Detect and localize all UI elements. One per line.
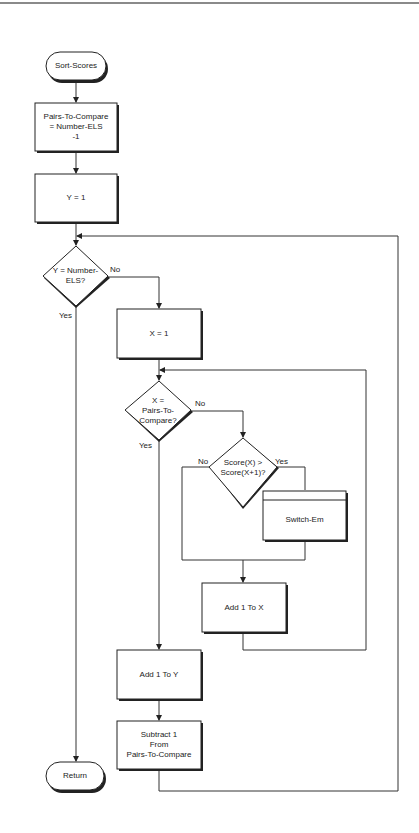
label-cond-score-no: No bbox=[198, 457, 209, 466]
label-cond-x-no: No bbox=[195, 399, 206, 408]
predefined-switch-em bbox=[263, 491, 346, 540]
label-cond-x-yes: Yes bbox=[139, 441, 152, 450]
edge-cond-score-yes bbox=[277, 467, 305, 490]
decision-cond-x bbox=[125, 381, 191, 440]
label-cond-y-yes: Yes bbox=[59, 311, 72, 320]
process-inc-x bbox=[202, 583, 286, 632]
edge-cond-x-no bbox=[191, 411, 243, 437]
flowchart-canvas: No Yes No Yes No Yes bbox=[0, 0, 419, 833]
process-inc-y bbox=[117, 650, 201, 699]
process-init-x bbox=[117, 309, 201, 358]
decision-cond-y bbox=[43, 246, 108, 306]
label-cond-y-no: No bbox=[110, 265, 121, 274]
process-init-y bbox=[35, 174, 117, 222]
terminal-start bbox=[46, 52, 106, 80]
process-dec-pairs bbox=[117, 721, 201, 769]
process-init-pairs bbox=[35, 103, 117, 151]
terminal-end bbox=[46, 762, 104, 790]
label-cond-score-yes: Yes bbox=[275, 457, 288, 466]
edge-switch-to-merge bbox=[243, 541, 305, 560]
edge-cond-y-no bbox=[108, 277, 159, 308]
